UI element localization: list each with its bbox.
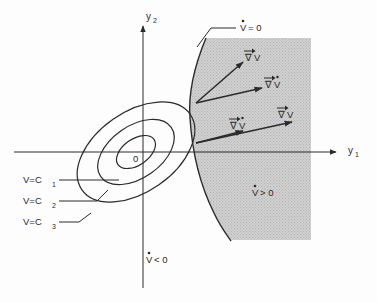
level-curve-c2-subscript: 2 <box>52 202 56 209</box>
nabla-symbol: ∇ <box>277 109 285 120</box>
v-symbol: V <box>287 109 294 120</box>
diagram-svg: y 1 y 2 0 ∇ V ∇ <box>0 0 377 302</box>
level-curve-c3-leader-line <box>59 213 91 222</box>
level-curve-c1-text: V=C <box>23 174 42 185</box>
level-curve-c2-text: V=C <box>23 195 42 206</box>
v-dot-icon <box>276 76 278 78</box>
v-symbol: V <box>239 120 246 131</box>
vdot-positive-v-symbol: V <box>252 187 259 198</box>
y-axis-label-subscript: 2 <box>153 17 157 24</box>
region-label-positive: V > 0 <box>252 185 273 198</box>
origin-label: 0 <box>133 153 138 164</box>
region-label-negative: V < 0 <box>146 252 167 265</box>
vdot-negative-rest: < 0 <box>154 254 167 265</box>
x-axis-label-subscript: 1 <box>355 151 359 158</box>
v-symbol: V <box>254 52 261 63</box>
vdot-dot-icon <box>242 20 245 23</box>
vdot-zero-rest: = 0 <box>248 22 261 33</box>
y-axis-label: y <box>146 11 151 22</box>
vdot-zero-v-symbol: V <box>240 22 247 33</box>
nabla-symbol: ∇ <box>264 79 272 90</box>
figure-container: y 1 y 2 0 ∇ V ∇ <box>0 0 377 302</box>
vdot-negative-v-symbol: V <box>146 254 153 265</box>
vdot-dot-icon <box>254 185 257 188</box>
shaded-region-vdot-positive <box>186 36 313 242</box>
vdot-dot-icon <box>148 252 151 255</box>
nabla-symbol: ∇ <box>244 52 252 63</box>
v-dot-icon <box>241 117 243 119</box>
nabla-symbol: ∇ <box>229 120 237 131</box>
x-axis-label: y <box>348 145 353 156</box>
level-curve-c3-text: V=C <box>23 216 42 227</box>
level-curve-c3-subscript: 3 <box>52 223 56 230</box>
vdot-positive-rest: > 0 <box>260 187 273 198</box>
level-curve-label-c3: V=C 3 <box>23 213 91 230</box>
level-curve-c1-subscript: 1 <box>52 181 56 188</box>
v-symbol: V <box>274 79 281 90</box>
